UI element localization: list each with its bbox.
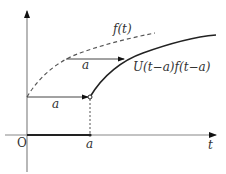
origin-label: O <box>17 136 27 150</box>
shift-upper-label: a <box>82 58 89 72</box>
a-tick-label: a <box>86 137 93 151</box>
shift-lower-label: a <box>52 97 59 111</box>
shifted-curve-label: U(t−a)f(t−a) <box>133 60 211 74</box>
open-point <box>88 95 92 99</box>
shift-diagram: O a t a a f(t) U(t−a)f(t−a) <box>0 0 226 174</box>
t-axis-label: t <box>208 138 213 152</box>
f-curve-label: f(t) <box>112 22 132 36</box>
